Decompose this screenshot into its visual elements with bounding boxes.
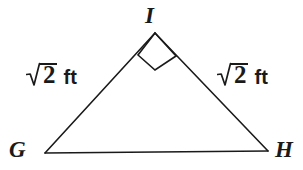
- side-base: [45, 151, 268, 153]
- vertex-label-h: H: [275, 138, 293, 161]
- radicand-value-left: 2: [41, 62, 57, 88]
- unit-label-right: ft: [255, 64, 268, 90]
- radicand-value-right: 2: [232, 62, 248, 88]
- radical-sign-icon: [26, 61, 41, 87]
- vertex-label-g: G: [9, 138, 26, 161]
- vertex-label-i: I: [145, 4, 154, 27]
- side-left-leg: [45, 33, 155, 153]
- side-length-label-left: 2 ft: [26, 61, 77, 87]
- side-length-label-right: 2 ft: [217, 61, 268, 87]
- unit-label-left: ft: [64, 64, 77, 90]
- radical-sign-icon: [217, 61, 232, 87]
- radical-expression-left: 2: [26, 61, 57, 87]
- geometry-figure: I G H 2 ft 2 ft: [0, 0, 303, 170]
- right-angle-marker-icon: [138, 33, 176, 70]
- radical-expression-right: 2: [217, 61, 248, 87]
